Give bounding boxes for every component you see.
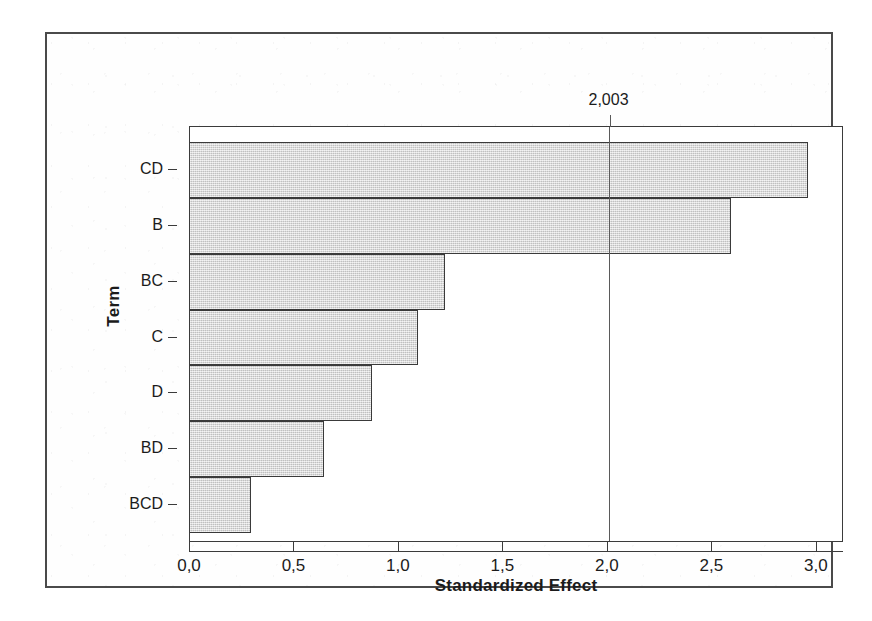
x-axis-tick-label: 1,5 bbox=[491, 556, 515, 576]
bar-bd bbox=[189, 421, 324, 477]
bar-bc bbox=[189, 254, 445, 310]
figure-frame: Term CDBBCCDBDBCD 2,003 0,00,51,01,52,02… bbox=[45, 32, 833, 588]
x-axis-title: Standardized Effect bbox=[189, 576, 843, 596]
x-axis-line bbox=[189, 551, 843, 552]
bars-layer bbox=[190, 127, 842, 541]
y-axis-tick bbox=[168, 448, 177, 449]
y-axis-tick bbox=[168, 392, 177, 393]
x-axis-tick-label: 1,0 bbox=[386, 556, 410, 576]
bar-b bbox=[189, 198, 731, 254]
reference-line-label: 2,003 bbox=[588, 91, 628, 109]
y-axis-label-bc: BC bbox=[141, 272, 163, 290]
y-axis-label-bd: BD bbox=[141, 439, 163, 457]
x-axis-tick bbox=[711, 542, 712, 552]
bar-row bbox=[190, 477, 842, 533]
bar-bcd bbox=[189, 477, 251, 533]
y-axis-tick bbox=[168, 169, 177, 170]
bar-row bbox=[190, 142, 842, 198]
y-axis-label-b: B bbox=[152, 216, 163, 234]
x-axis-tick bbox=[816, 542, 817, 552]
bar-row bbox=[190, 254, 842, 310]
bar-c bbox=[189, 310, 418, 366]
bar-row bbox=[190, 365, 842, 421]
y-axis-label-d: D bbox=[151, 383, 163, 401]
x-axis-tick bbox=[189, 542, 190, 552]
bar-row bbox=[190, 310, 842, 366]
y-axis-tick bbox=[168, 337, 177, 338]
y-axis-tick bbox=[168, 504, 177, 505]
y-axis-labels: CDBBCCDBDBCD bbox=[129, 126, 177, 542]
x-axis: 0,00,51,01,52,02,53,0 bbox=[189, 542, 843, 543]
x-axis-tick bbox=[293, 542, 294, 552]
y-axis-label-bcd: BCD bbox=[129, 495, 163, 513]
x-axis-tick-label: 0,0 bbox=[177, 556, 201, 576]
x-axis-tick-label: 2,5 bbox=[700, 556, 724, 576]
bar-row bbox=[190, 421, 842, 477]
x-axis-tick-label: 2,0 bbox=[595, 556, 619, 576]
x-axis-tick bbox=[607, 542, 608, 552]
x-axis-tick bbox=[398, 542, 399, 552]
x-axis-tick bbox=[502, 542, 503, 552]
y-axis-tick bbox=[168, 225, 177, 226]
bar-d bbox=[189, 365, 372, 421]
y-axis-title: Term bbox=[104, 246, 124, 366]
y-axis-label-c: C bbox=[151, 328, 163, 346]
y-axis-label-cd: CD bbox=[140, 160, 163, 178]
bar-row bbox=[190, 198, 842, 254]
reference-line-tick bbox=[610, 115, 611, 127]
bar-cd bbox=[189, 142, 808, 198]
x-axis-tick-label: 3,0 bbox=[804, 556, 828, 576]
reference-line bbox=[609, 127, 610, 541]
x-axis-tick-label: 0,5 bbox=[282, 556, 306, 576]
plot-area: 2,003 bbox=[189, 126, 843, 542]
y-axis-tick bbox=[168, 281, 177, 282]
